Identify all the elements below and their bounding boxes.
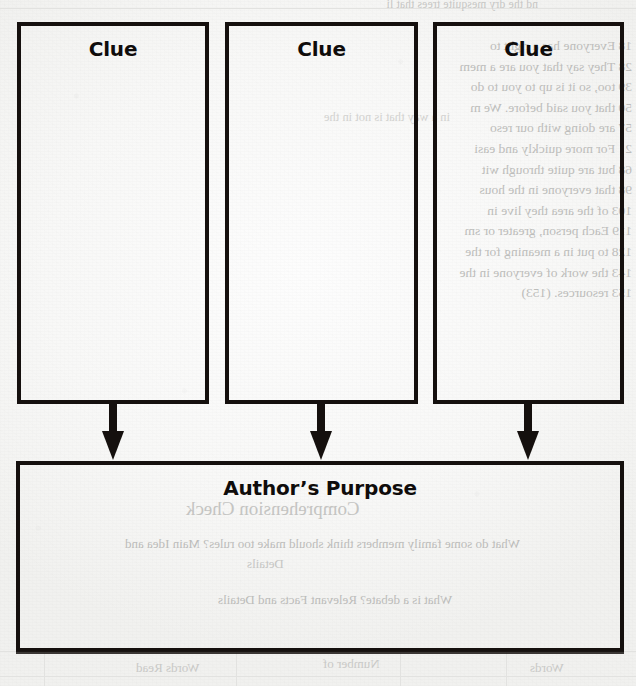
clue-box-1[interactable]: Clue	[17, 22, 209, 404]
arrow-stem	[109, 400, 117, 434]
arrow-head	[102, 431, 124, 460]
down-arrow-icon-1	[100, 400, 126, 460]
clue-box-3[interactable]: Clue	[433, 22, 624, 404]
arrow-stem	[524, 400, 532, 434]
down-arrow-icon-3	[515, 400, 541, 460]
worksheet-page: nd the dry mesquite trees that li 18 Eve…	[0, 0, 636, 686]
clue-box-2[interactable]: Clue	[225, 22, 418, 404]
clue-box-3-label: Clue	[437, 37, 620, 61]
down-arrow-icon-2	[308, 400, 334, 460]
clue-box-1-label: Clue	[21, 37, 205, 61]
authors-purpose-label: Author’s Purpose	[20, 476, 620, 500]
clue-box-2-label: Clue	[229, 37, 414, 61]
arrow-stem	[317, 400, 325, 434]
arrow-head	[310, 431, 332, 460]
authors-purpose-box[interactable]: Author’s Purpose	[16, 461, 624, 652]
arrow-head	[517, 431, 539, 460]
